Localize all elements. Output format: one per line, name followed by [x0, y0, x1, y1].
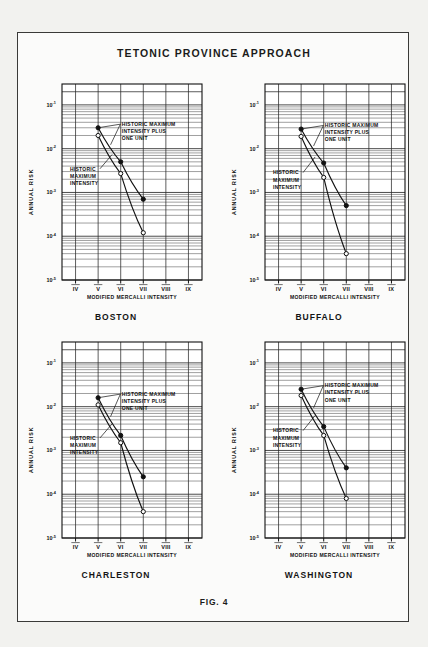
svg-text:10-1: 10-1 [250, 359, 259, 365]
annotation-historic-max-plus-one: INTENSITY PLUS [122, 398, 167, 404]
annotation-historic-max: INTENSITY [70, 180, 99, 186]
data-point-marker [344, 252, 348, 256]
x-axis-title: MODIFIED MERCALLI INTENSITY [87, 294, 177, 300]
data-point-marker [141, 510, 145, 514]
svg-text:10-3: 10-3 [47, 189, 56, 195]
y-tick-label: 10-4 [250, 491, 260, 497]
data-point-marker [299, 393, 303, 397]
data-point-marker [141, 231, 145, 235]
y-tick-label: 10-5 [47, 535, 56, 541]
chart-panel-buffalo: 10-110-210-310-410-5IVVVIVIIVIIIIXMODIFI… [225, 78, 413, 326]
page-title: TETONIC PROVINCE APPROACH [0, 47, 428, 59]
x-tick-label: VIII [161, 544, 170, 550]
y-tick-label: 10-1 [250, 101, 259, 107]
data-point-marker [344, 496, 348, 500]
chart-panel-charleston: 10-110-210-310-410-5IVVVIVIIVIIIIXMODIFI… [22, 336, 210, 584]
y-tick-label: 10-4 [47, 491, 57, 497]
chart-city-label-washington: WASHINGTON [225, 570, 413, 580]
data-point-marker [322, 425, 326, 429]
figure-page: TETONIC PROVINCE APPROACH 10-110-210-310… [0, 0, 428, 647]
x-tick-label: IV [276, 286, 282, 292]
y-tick-label: 10-2 [250, 145, 259, 151]
x-tick-label: V [299, 286, 303, 292]
x-tick-label: VI [321, 286, 327, 292]
y-axis-title: ANNUAL RISK [231, 427, 237, 473]
annotation-historic-max: HISTORIC [273, 427, 299, 433]
x-tick-label: VIII [161, 286, 170, 292]
svg-text:10-3: 10-3 [47, 447, 56, 453]
y-tick-label: 10-2 [250, 403, 259, 409]
annotation-historic-max: MAXIMUM [70, 442, 96, 448]
annotation-historic-max: INTENSITY [273, 442, 302, 448]
x-tick-label: IV [73, 544, 79, 550]
annotation-historic-max-plus-one: INTENSITY PLUS [325, 129, 370, 135]
y-axis-title: ANNUAL RISK [28, 169, 34, 215]
x-tick-label: IX [389, 544, 395, 550]
data-point-marker [322, 161, 326, 165]
x-tick-label: IX [186, 286, 192, 292]
y-tick-label: 10-3 [250, 447, 259, 453]
annotation-historic-max: HISTORIC [70, 166, 96, 172]
svg-text:10-5: 10-5 [250, 277, 259, 283]
x-tick-label: VIII [364, 544, 373, 550]
svg-text:10-4: 10-4 [47, 233, 57, 239]
data-point-marker [119, 441, 123, 445]
svg-text:10-2: 10-2 [47, 403, 56, 409]
data-point-marker [119, 171, 123, 175]
y-tick-label: 10-1 [250, 359, 259, 365]
y-tick-label: 10-1 [47, 359, 56, 365]
x-tick-label: VII [140, 544, 148, 550]
data-point-marker [344, 466, 348, 470]
x-tick-label: VII [343, 286, 351, 292]
chart-city-label-buffalo: BUFFALO [225, 312, 413, 322]
x-tick-label: V [299, 544, 303, 550]
annotation-historic-max: INTENSITY [70, 449, 99, 455]
data-point-marker [141, 475, 145, 479]
x-tick-label: VIII [364, 286, 373, 292]
annotation-historic-max-plus-one: ONE UNIT [122, 135, 148, 141]
x-tick-label: IX [389, 286, 395, 292]
x-tick-label: VI [321, 544, 327, 550]
y-axis-title: ANNUAL RISK [28, 427, 34, 473]
y-tick-label: 10-2 [47, 145, 56, 151]
data-point-marker [119, 160, 123, 164]
x-axis-title: MODIFIED MERCALLI INTENSITY [87, 552, 177, 558]
svg-text:10-2: 10-2 [250, 403, 259, 409]
annotation-historic-max-plus-one: INTENSITY PLUS [325, 389, 370, 395]
x-tick-label: V [96, 286, 100, 292]
x-tick-label: IV [276, 544, 282, 550]
annotation-historic-max-plus-one: INTENSITY PLUS [122, 128, 167, 134]
svg-text:10-2: 10-2 [47, 145, 56, 151]
y-axis-title: ANNUAL RISK [231, 169, 237, 215]
y-tick-label: 10-2 [47, 403, 56, 409]
annotation-historic-max: MAXIMUM [273, 435, 299, 441]
svg-text:10-2: 10-2 [250, 145, 259, 151]
annotation-historic-max-plus-one: HISTORIC MAXIMUM [122, 121, 176, 127]
y-tick-label: 10-3 [47, 447, 56, 453]
chart-city-label-charleston: CHARLESTON [22, 570, 210, 580]
annotation-historic-max: HISTORIC [70, 435, 96, 441]
data-point-marker [141, 197, 145, 201]
y-tick-label: 10-3 [47, 189, 56, 195]
svg-text:10-5: 10-5 [47, 277, 56, 283]
x-tick-label: VII [343, 544, 351, 550]
chart-panel-washington: 10-110-210-310-410-5IVVVIVIIVIIIIXMODIFI… [225, 336, 413, 584]
annotation-historic-max-plus-one: HISTORIC MAXIMUM [325, 382, 379, 388]
svg-text:10-3: 10-3 [250, 189, 259, 195]
svg-text:10-5: 10-5 [47, 535, 56, 541]
y-tick-label: 10-5 [250, 277, 259, 283]
y-tick-label: 10-4 [47, 233, 57, 239]
svg-text:10-3: 10-3 [250, 447, 259, 453]
svg-text:10-1: 10-1 [47, 359, 56, 365]
annotation-historic-max: HISTORIC [273, 169, 299, 175]
data-point-marker [344, 204, 348, 208]
chart-city-label-boston: BOSTON [22, 312, 210, 322]
svg-text:10-4: 10-4 [250, 233, 260, 239]
svg-text:10-5: 10-5 [250, 535, 259, 541]
data-point-marker [322, 433, 326, 437]
data-point-marker [322, 175, 326, 179]
annotation-historic-max: MAXIMUM [273, 177, 299, 183]
y-tick-label: 10-5 [250, 535, 259, 541]
annotation-historic-max-plus-one: HISTORIC MAXIMUM [122, 391, 176, 397]
y-tick-label: 10-4 [250, 233, 260, 239]
